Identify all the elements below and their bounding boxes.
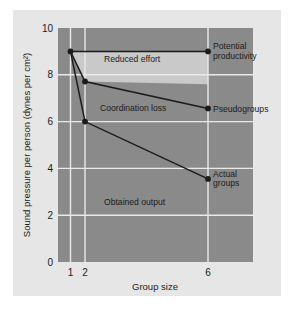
x-tick-6: 6 bbox=[205, 267, 211, 278]
x-axis-ticks: 1 2 6 bbox=[68, 267, 212, 278]
marker-pseudogroups-n2 bbox=[82, 79, 88, 85]
x-tick-1: 1 bbox=[68, 267, 74, 278]
y-tick-6: 6 bbox=[47, 116, 53, 127]
y-axis-title: Sound pressure per person (dynes per cm²… bbox=[21, 53, 32, 237]
marker-pseudogroups-n6 bbox=[205, 106, 211, 112]
annotation-reduced-effort: Reduced effort bbox=[104, 54, 161, 64]
y-tick-10: 10 bbox=[42, 23, 54, 34]
y-tick-4: 4 bbox=[47, 163, 53, 174]
y-tick-0: 0 bbox=[47, 257, 53, 268]
annotation-obtained-output: Obtained output bbox=[104, 197, 166, 207]
y-tick-2: 2 bbox=[47, 210, 53, 221]
annotation-coordination-loss: Coordination loss bbox=[100, 103, 166, 113]
series-label-actual-groups-line1: Actual bbox=[213, 169, 237, 179]
series-label-actual-groups-line2: groups bbox=[213, 178, 239, 188]
series-label-potential-productivity-line2: productivity bbox=[213, 51, 257, 61]
series-label-pseudogroups: Pseudogroups bbox=[213, 104, 268, 114]
y-tick-8: 8 bbox=[47, 69, 53, 80]
series-label-potential-productivity-line1: Potential bbox=[213, 41, 247, 51]
x-tick-2: 2 bbox=[82, 267, 88, 278]
marker-n1-shared bbox=[68, 49, 74, 55]
chart-figure: 0 2 4 6 8 10 1 2 6 Group size Sound pres… bbox=[0, 0, 294, 311]
y-axis-ticks: 0 2 4 6 8 10 bbox=[42, 23, 54, 268]
marker-actual-n2 bbox=[82, 119, 88, 125]
marker-actual-n6 bbox=[205, 176, 211, 182]
x-axis-title: Group size bbox=[132, 281, 178, 292]
marker-potential-n6 bbox=[205, 49, 211, 55]
